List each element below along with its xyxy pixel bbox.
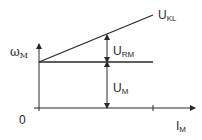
um-label: UM (113, 81, 129, 96)
ukl-label: UKL (158, 8, 177, 23)
ukl-sloped-line (39, 15, 153, 62)
origin-label: 0 (19, 113, 26, 127)
x-axis-label: IM (176, 119, 186, 134)
diagram-canvas: ωM UKL URM UM 0 IM (0, 0, 202, 140)
y-axis-label: ωM (10, 45, 28, 60)
urm-label: URM (113, 44, 134, 59)
